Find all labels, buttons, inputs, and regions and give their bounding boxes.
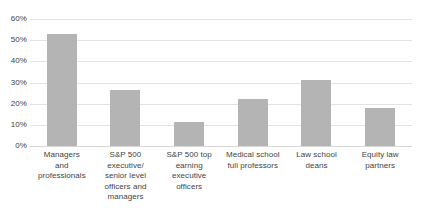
x-axis-category-line: Managers (30, 150, 94, 161)
bar-slot (285, 19, 349, 146)
x-axis-category-line: deans (285, 161, 349, 172)
y-axis-tick-label: 0% (0, 142, 27, 150)
y-axis-tick-label: 60% (0, 15, 27, 23)
x-axis-category-line: S&P 500 (94, 150, 158, 161)
axis-baseline (30, 146, 412, 147)
bar-slot (348, 19, 412, 146)
bar[interactable] (110, 90, 140, 146)
bar-chart: 60%50%40%30%20%10%0% Managersandprofessi… (0, 0, 422, 216)
x-axis-category-line: managers (94, 192, 158, 203)
y-axis-tick-label: 30% (0, 79, 27, 87)
x-axis-category-line: officers and (94, 182, 158, 193)
x-axis-category-line: full professors (221, 161, 285, 172)
x-axis-category-line: Equity law (348, 150, 412, 161)
x-axis-category-label: Equity lawpartners (348, 150, 412, 171)
x-axis-category-line: Medical school (221, 150, 285, 161)
y-axis-tick-label: 50% (0, 36, 27, 44)
x-axis-category-label: S&P 500executive/senior levelofficers an… (94, 150, 158, 203)
bar-slot (30, 19, 94, 146)
x-axis-category-line: senior level (94, 171, 158, 182)
bar-slot (157, 19, 221, 146)
bar[interactable] (47, 34, 77, 146)
y-axis-tick-label: 40% (0, 57, 27, 65)
bar-slot (94, 19, 158, 146)
x-axis-category-line: earning (157, 161, 221, 172)
y-axis-tick-label: 10% (0, 121, 27, 129)
x-axis-category-line: executive/ (94, 161, 158, 172)
y-axis: 60%50%40%30%20%10%0% (0, 19, 27, 146)
bars-layer (30, 19, 412, 146)
x-axis-category-line: officers (157, 182, 221, 193)
x-axis-category-line: and (30, 161, 94, 172)
x-axis-category-label: S&P 500 topearningexecutiveofficers (157, 150, 221, 192)
bar[interactable] (301, 80, 331, 146)
bar[interactable] (174, 122, 204, 146)
y-axis-tick-label: 20% (0, 100, 27, 108)
bar[interactable] (238, 99, 268, 146)
bar[interactable] (365, 108, 395, 146)
x-axis-category-line: Law school (285, 150, 349, 161)
bar-slot (221, 19, 285, 146)
x-axis-category-label: Managersandprofessionals (30, 150, 94, 182)
x-axis-category-label: Medical schoolfull professors (221, 150, 285, 171)
x-axis-category-line: partners (348, 161, 412, 172)
x-axis-labels: ManagersandprofessionalsS&P 500executive… (30, 150, 412, 214)
x-axis-category-line: professionals (30, 171, 94, 182)
x-axis-category-label: Law schooldeans (285, 150, 349, 171)
x-axis-category-line: S&P 500 top (157, 150, 221, 161)
x-axis-category-line: executive (157, 171, 221, 182)
